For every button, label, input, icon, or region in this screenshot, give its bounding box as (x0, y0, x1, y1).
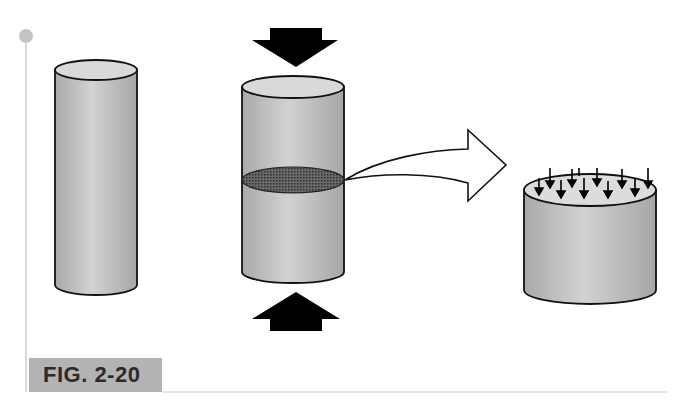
curved-arrow-icon (345, 130, 506, 201)
corner-dot-icon (19, 29, 33, 43)
figure-2-20: FIG. 2-20 (0, 0, 680, 410)
compressed-cylinder (242, 76, 344, 283)
force-arrow-up-icon (252, 292, 340, 331)
tall-cylinder (55, 60, 137, 295)
cross-section-cylinder (524, 168, 656, 304)
force-arrow-down-icon (252, 28, 338, 67)
cut-section (242, 167, 344, 193)
figure-label: FIG. 2-20 (29, 358, 162, 392)
